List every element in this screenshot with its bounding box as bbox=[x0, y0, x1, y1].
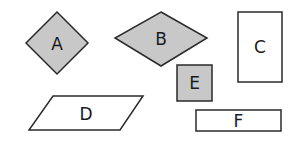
shape-b: B bbox=[115, 12, 207, 66]
shape-a: A bbox=[26, 12, 88, 74]
shape-a-label: A bbox=[51, 34, 63, 54]
shape-c-label: C bbox=[254, 37, 266, 57]
shape-f-label: F bbox=[234, 111, 244, 131]
shape-d-label: D bbox=[79, 104, 92, 124]
shape-b-label: B bbox=[155, 29, 167, 49]
shape-f: F bbox=[196, 110, 281, 131]
shape-c: C bbox=[238, 12, 282, 82]
shape-e: E bbox=[177, 65, 212, 101]
shape-e-label: E bbox=[189, 73, 200, 93]
shapes-diagram: A B C E D F bbox=[0, 0, 298, 149]
shapes-svg: A B C E D F bbox=[0, 0, 298, 149]
shape-d: D bbox=[29, 96, 143, 130]
